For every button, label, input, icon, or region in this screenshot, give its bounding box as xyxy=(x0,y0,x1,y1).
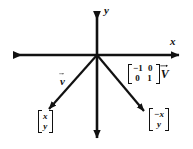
y-axis-label: y xyxy=(104,5,109,16)
vector-v-letter: v xyxy=(60,75,65,87)
image-coord-y: y xyxy=(157,119,161,129)
vector-v-label: v xyxy=(60,76,65,87)
bracket-right-icon xyxy=(165,108,169,131)
x-axis-label: x xyxy=(170,36,176,47)
source-coords-label: x y xyxy=(38,110,53,136)
source-coord-x: x xyxy=(43,111,48,121)
matrix-cell-r2c1: 0 xyxy=(133,74,142,84)
matrix-2x2: −1 0 0 1 xyxy=(128,64,160,84)
vector-v-line xyxy=(49,55,97,109)
vector-arrow-icon xyxy=(59,71,64,76)
bracket-right-icon xyxy=(49,110,53,133)
column-vector-source: x y xyxy=(38,110,53,133)
source-coord-y: y xyxy=(43,121,47,131)
vector-arrow-icon xyxy=(160,63,168,68)
matrix-cell-r2c2: 1 xyxy=(145,74,154,84)
result-vector-letter: V xyxy=(161,67,169,81)
image-coord-x: −x xyxy=(154,109,164,119)
column-vector-image: −x y xyxy=(149,108,169,131)
image-coords-label: −x y xyxy=(149,108,169,134)
reflection-diagram: x y v x y −1 xyxy=(0,0,193,149)
transformation-matrix-label: −1 0 0 1 V xyxy=(128,64,169,87)
matrix-row-2: 0 1 xyxy=(133,74,155,84)
